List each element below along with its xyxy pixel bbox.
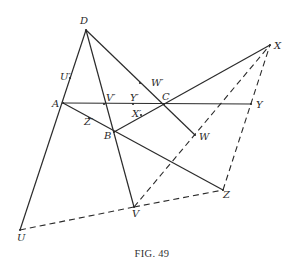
- point-label-C: C: [162, 91, 170, 102]
- dashed-segments: [20, 45, 270, 230]
- point-label-W: W: [199, 131, 210, 142]
- point-label-Z: Z: [222, 189, 231, 200]
- point-label-B: B: [103, 130, 111, 141]
- point-W1: [139, 82, 141, 84]
- segment-V-Z: [134, 190, 223, 207]
- point-B: [113, 131, 115, 133]
- point-label-U1: U′: [60, 71, 71, 82]
- point-V1: [103, 103, 105, 105]
- segment-V-X: [134, 45, 270, 207]
- point-D: [85, 29, 87, 31]
- point-label-V1: V′: [106, 92, 116, 103]
- point-label-D: D: [79, 15, 88, 26]
- point-label-Y: Y: [256, 99, 264, 110]
- point-C: [163, 103, 165, 105]
- segment-A-Y: [63, 103, 251, 104]
- solid-segments: [20, 30, 270, 230]
- point-label-X: X: [273, 40, 282, 51]
- point-label-V: V: [132, 208, 141, 219]
- point-X: [269, 44, 271, 46]
- geometry-figure: DXU′W′AV′Y′CYX′Z′BWZVU FIG. 49: [0, 0, 297, 265]
- point-label-U: U: [17, 232, 26, 243]
- figure-caption: FIG. 49: [135, 248, 170, 259]
- segment-D-U: [20, 30, 86, 230]
- point-label-X1: X′: [131, 108, 142, 119]
- point-label-A: A: [51, 98, 59, 109]
- point-A: [62, 102, 64, 104]
- point-U: [19, 229, 21, 231]
- segment-U-V: [20, 207, 134, 230]
- point-Y1: [132, 103, 134, 105]
- point-label-Y1: Y′: [130, 92, 140, 103]
- point-label-W1: W′: [151, 77, 164, 88]
- point-W: [194, 134, 196, 136]
- point-label-Z1: Z′: [83, 116, 94, 127]
- point-Y: [250, 103, 252, 105]
